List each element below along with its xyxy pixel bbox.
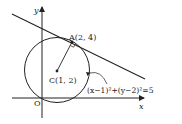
y-axis-label: y [33, 6, 39, 15]
radius-ca [57, 42, 72, 71]
origin-label: O [34, 99, 41, 108]
point-c-label: C(1, 2) [49, 76, 77, 85]
x-axis-label: x [139, 102, 144, 111]
tangent-line-diagram: y x O A(2, 4) C(1, 2) (x−1)²+(y−2)²=5 [0, 0, 182, 124]
point-c [56, 70, 59, 73]
point-a-label: A(2, 4) [68, 33, 96, 42]
equation-leader [90, 72, 107, 84]
tangent-line [12, 14, 145, 79]
circle-equation: (x−1)²+(y−2)²=5 [87, 86, 154, 95]
